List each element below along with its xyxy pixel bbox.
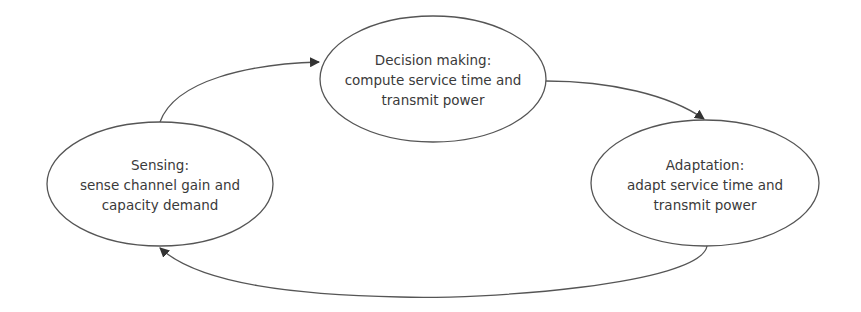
arrow-sensing-to-decision (160, 62, 319, 122)
sensing-line2: capacity demand (47, 195, 273, 215)
decision-title: Decision making: (320, 50, 546, 70)
adaptation-node-label: Adaptation: adapt service time and trans… (591, 155, 819, 215)
adaptation-title: Adaptation: (591, 155, 819, 175)
decision-line2: transmit power (320, 90, 546, 110)
arrow-adaptation-to-sensing (160, 246, 707, 297)
sensing-line1: sense channel gain and (47, 175, 273, 195)
adaptation-line2: transmit power (591, 195, 819, 215)
sensing-node-label: Sensing: sense channel gain and capacity… (47, 155, 273, 215)
adaptation-line1: adapt service time and (591, 175, 819, 195)
sensing-title: Sensing: (47, 155, 273, 175)
arrow-decision-to-adaptation (546, 81, 704, 119)
decision-line1: compute service time and (320, 70, 546, 90)
decision-node-label: Decision making: compute service time an… (320, 50, 546, 110)
